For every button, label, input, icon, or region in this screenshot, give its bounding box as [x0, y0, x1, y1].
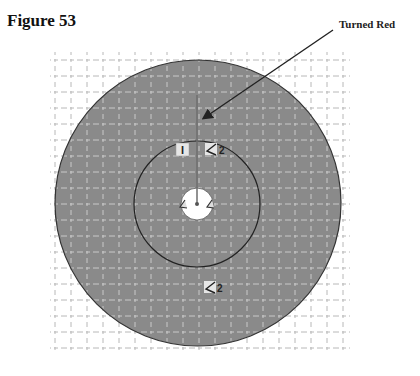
- diagram-canvas: I 2 2: [0, 0, 420, 376]
- angle-marker-bottom: 2: [204, 281, 223, 294]
- svg-text:2: 2: [217, 283, 223, 294]
- center-point: [195, 202, 199, 206]
- angle-marker-top: 2: [205, 143, 225, 156]
- marker-i-label: I: [181, 144, 184, 156]
- svg-text:2: 2: [219, 145, 225, 156]
